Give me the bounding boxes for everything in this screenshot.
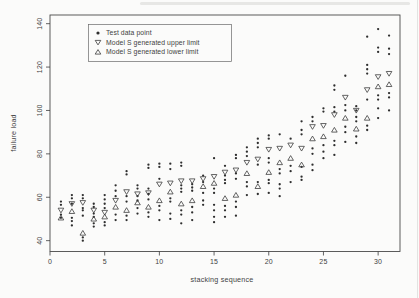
test-data-point (300, 120, 302, 122)
test-data-point (169, 162, 171, 164)
legend-label-test-data-point: Test data point (106, 29, 152, 37)
test-data-point (114, 190, 116, 192)
test-data-point (246, 194, 248, 196)
test-data-point (104, 203, 106, 205)
lower-limit-marker (168, 189, 174, 194)
test-data-point (333, 154, 335, 156)
lower-limit-marker (386, 82, 392, 87)
test-data-point (344, 141, 346, 143)
test-data-point (279, 183, 281, 185)
lower-limit-marker (124, 208, 130, 213)
test-data-point (114, 219, 116, 221)
upper-limit-marker (189, 179, 195, 184)
test-data-point (246, 181, 248, 183)
upper-limit-marker (321, 124, 327, 129)
test-data-point (136, 207, 138, 209)
test-data-point (104, 221, 106, 223)
test-data-point (82, 194, 84, 196)
test-data-point (213, 157, 215, 159)
test-data-point (158, 162, 160, 164)
test-data-point (180, 187, 182, 189)
y-axis-ticks: 406080100120140 (37, 18, 51, 245)
lower-limit-marker (288, 156, 294, 161)
upper-limit-marker (157, 182, 163, 187)
test-data-point (125, 195, 127, 197)
test-data-point (180, 184, 182, 186)
test-data-point (125, 215, 127, 217)
test-data-point (377, 98, 379, 100)
upper-limit-marker (332, 113, 338, 118)
test-data-point (377, 46, 379, 48)
lower-limit-marker (178, 201, 184, 206)
lower-limit-marker (321, 134, 327, 139)
test-data-point (169, 197, 171, 199)
test-data-point (125, 173, 127, 175)
test-data-point (224, 182, 226, 184)
lower-limit-marker (157, 198, 163, 203)
test-data-point (322, 157, 324, 159)
test-data-point (224, 179, 226, 181)
test-data-point (289, 181, 291, 183)
lower-limit-marker (332, 127, 338, 132)
upper-limit-marker (233, 168, 239, 173)
test-data-point (125, 170, 127, 172)
test-data-point (257, 138, 259, 140)
test-data-point (147, 187, 149, 189)
lower-limit-marker (69, 209, 75, 214)
upper-limit-marker (343, 95, 349, 100)
test-data-point (333, 84, 335, 86)
test-data-point (180, 209, 182, 211)
test-data-point (191, 186, 193, 188)
y-tick-label: 120 (37, 61, 44, 73)
test-data-point (147, 216, 149, 218)
test-data-point (366, 72, 368, 74)
upper-limit-marker (168, 181, 174, 186)
test-data-point (114, 213, 116, 215)
test-data-point (147, 164, 149, 166)
test-data-point (311, 164, 313, 166)
test-data-point (268, 182, 270, 184)
upper-limit-marker (375, 75, 381, 80)
upper-limit-marker (124, 190, 130, 195)
x-tick-label: 30 (374, 258, 382, 265)
test-data-point (355, 120, 357, 122)
upper-limit-marker (288, 143, 294, 148)
test-data-point (235, 178, 237, 180)
test-data-point (125, 200, 127, 202)
lower-limit-marker (135, 200, 141, 205)
lower-limit-marker (375, 84, 381, 89)
test-data-point (93, 225, 95, 227)
test-data-point (235, 154, 237, 156)
test-data-point (322, 107, 324, 109)
test-data-point (191, 190, 193, 192)
test-data-point (355, 135, 357, 137)
test-data-point (257, 164, 259, 166)
test-data-point (147, 211, 149, 213)
test-data-point (279, 133, 281, 135)
data-points (58, 28, 392, 242)
scan-artifact-right (417, 0, 418, 298)
test-data-point (333, 140, 335, 142)
test-data-point (158, 209, 160, 211)
test-data-point (300, 133, 302, 135)
test-data-point (213, 204, 215, 206)
upper-limit-marker (58, 208, 64, 213)
test-data-point (235, 215, 237, 217)
upper-limit-marker (135, 192, 141, 197)
test-data-point (377, 28, 379, 30)
lower-limit-marker (364, 115, 370, 120)
upper-limit-marker (277, 146, 283, 151)
lower-limit-marker (200, 184, 206, 189)
test-data-point (180, 213, 182, 215)
scan-artifact-top (140, 2, 410, 5)
test-data-point (169, 218, 171, 220)
legend-label-lower-limit: Model S generated lower limit (106, 48, 198, 56)
x-axis-label: stacking sequence (191, 275, 254, 284)
test-data-point (71, 194, 73, 196)
test-data-point (180, 191, 182, 193)
test-data-point (246, 185, 248, 187)
test-data-point (82, 207, 84, 209)
test-data-point (388, 53, 390, 55)
test-data-point (311, 153, 313, 155)
x-tick-label: 15 (210, 258, 218, 265)
